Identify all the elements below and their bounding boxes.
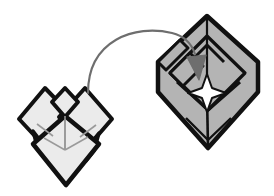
origami-diagram bbox=[0, 0, 274, 196]
origami-illustration bbox=[0, 0, 274, 196]
